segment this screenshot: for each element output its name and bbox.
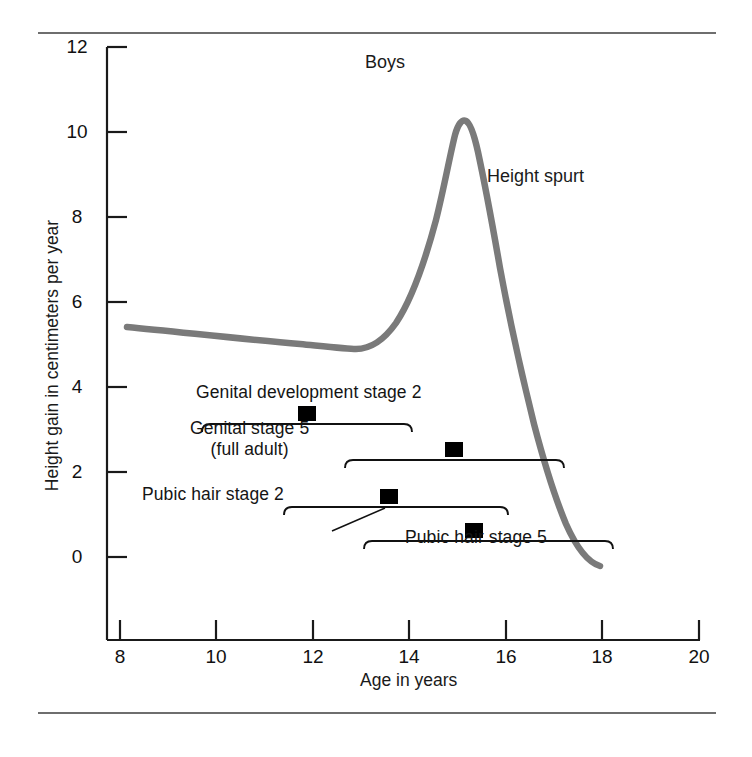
stage-label-genital-development-stage-2: Genital development stage 2 — [196, 382, 421, 403]
stage-label-genital-stage-5-line2: (full adult) — [190, 439, 309, 460]
y-tick-label-0: 0 — [58, 546, 96, 568]
x-tick-label-16: 16 — [486, 646, 526, 668]
chart-title: Boys — [365, 52, 405, 73]
chart-plot-area — [0, 0, 752, 757]
y-tick-label-6: 6 — [58, 291, 96, 313]
y-tick-label-8: 8 — [58, 206, 96, 228]
x-tick-label-20: 20 — [679, 646, 719, 668]
x-tick-label-18: 18 — [582, 646, 622, 668]
y-tick-label-2: 2 — [58, 461, 96, 483]
stage-label-genital-stage-5: Genital stage 5 (full adult) — [190, 418, 309, 459]
stage-label-genital-stage-5-line1: Genital stage 5 — [190, 418, 309, 439]
y-tick-label-4: 4 — [58, 376, 96, 398]
stage-marker-genital-stage-5 — [445, 442, 463, 457]
y-tick-label-12: 12 — [58, 36, 96, 58]
x-tick-label-12: 12 — [293, 646, 333, 668]
chart-page: 12 10 8 6 4 2 0 8 10 12 14 16 18 20 Boys… — [0, 0, 752, 757]
y-tick-label-10: 10 — [58, 121, 96, 143]
height-spurt-annotation: Height spurt — [487, 166, 584, 187]
stage-bar-genital-stage-5 — [345, 442, 564, 468]
axes-group — [107, 47, 700, 640]
stage-label-pubic-hair-stage-5: Pubic hair stage 5 — [405, 527, 547, 548]
x-tick-label-10: 10 — [196, 646, 236, 668]
x-axis-title: Age in years — [360, 670, 457, 691]
leader-line-pubic-hair-stage-2 — [332, 508, 385, 531]
x-tick-label-14: 14 — [389, 646, 429, 668]
stage-label-pubic-hair-stage-2: Pubic hair stage 2 — [142, 484, 284, 505]
y-axis-title: Height gain in centimeters per year — [42, 186, 63, 526]
stage-marker-pubic-hair-stage-2 — [380, 489, 398, 504]
x-tick-label-8: 8 — [100, 646, 140, 668]
